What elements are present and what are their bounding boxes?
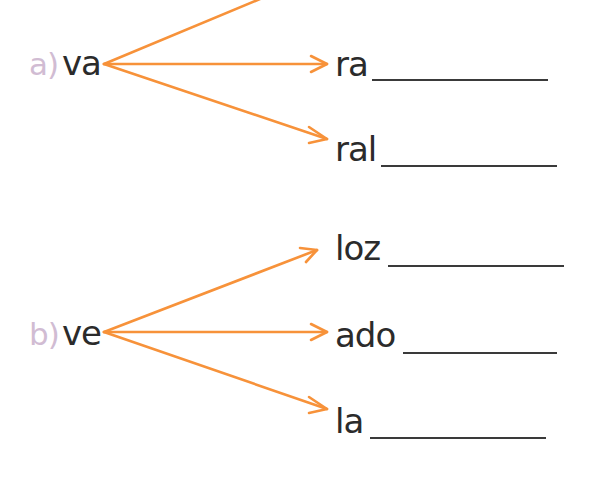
exercise-b-ending-loz: loz: [335, 228, 380, 268]
exercise-a-stem: va: [62, 43, 101, 83]
answer-blank-b-loz[interactable]: [388, 265, 564, 267]
exercise-b-stem: ve: [62, 313, 101, 353]
exercise-a-ending-ral: ral: [335, 129, 376, 169]
exercise-a-label: a): [29, 46, 58, 82]
answer-blank-b-ado[interactable]: [403, 352, 557, 354]
answer-blank-a-ral[interactable]: [381, 165, 557, 167]
arrow-b-loz-icon: [104, 248, 317, 332]
exercise-b-ending-la: la: [335, 401, 363, 441]
answer-blank-a-ra[interactable]: [372, 79, 548, 81]
arrow-b-ado-icon: [104, 324, 327, 340]
arrow-a-ral-icon: [104, 64, 327, 143]
exercise-b-label: b): [29, 316, 59, 352]
arrow-b-la-icon: [104, 332, 327, 413]
exercise-b-ending-ado: ado: [335, 315, 395, 355]
arrow-a-top: [104, 0, 272, 64]
answer-blank-b-la[interactable]: [370, 437, 546, 439]
arrow-a-ra-icon: [104, 56, 327, 72]
exercise-a-ending-ra: ra: [335, 44, 368, 84]
